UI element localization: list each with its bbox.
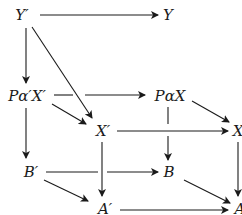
node-x-prime: X′ <box>96 124 110 139</box>
arrow-b-a <box>184 180 230 203</box>
arrows-layer <box>0 0 242 214</box>
node-a-prime: A′ <box>98 202 112 215</box>
node-y: Y <box>163 8 173 23</box>
node-b-prime: B′ <box>24 165 38 180</box>
node-x: X <box>233 124 242 139</box>
arrow-pax-x <box>192 101 229 122</box>
node-b: B <box>163 165 174 180</box>
node-p-alpha-x: PαX <box>155 89 186 104</box>
node-p-alpha-prime-x-prime: Pα′X′ <box>8 89 46 104</box>
node-y-prime: Y′ <box>15 8 28 23</box>
arrow-bp-ap <box>44 180 88 201</box>
arrow-paxp-xp <box>52 104 86 124</box>
node-a: A <box>235 202 242 215</box>
commutative-cube-diagram: Y′ Y Pα′X′ PαX X′ X B′ B A′ A <box>0 0 242 214</box>
